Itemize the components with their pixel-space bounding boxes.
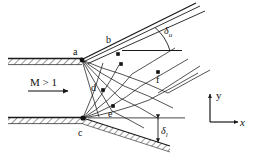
characteristics-left-running bbox=[132, 48, 210, 100]
point-label-c: c bbox=[78, 127, 83, 138]
delta-u-subscript: u bbox=[169, 31, 173, 39]
axis-label-x: x bbox=[239, 116, 245, 128]
lower-wall bbox=[8, 118, 83, 124]
upper-slipstream bbox=[82, 3, 205, 64]
point-label-b: b bbox=[106, 34, 111, 45]
point-label-e: e bbox=[108, 108, 113, 119]
figure-canvas: M > 1 a b c d e f δu δl y x bbox=[0, 0, 254, 163]
lower-deflected-boundary bbox=[83, 118, 170, 152]
upper-wall bbox=[8, 59, 82, 65]
axis-triad bbox=[210, 94, 238, 122]
point-label-a: a bbox=[73, 46, 78, 57]
mach-characteristics-diagram: M > 1 a b c d e f δu δl y x bbox=[0, 0, 254, 163]
delta-l-label: δl bbox=[161, 125, 168, 139]
delta-u-label: δu bbox=[164, 25, 173, 39]
characteristics-right-running bbox=[112, 74, 173, 128]
point-label-d: d bbox=[91, 82, 96, 93]
axis-label-y: y bbox=[216, 89, 222, 101]
delta-l-subscript: l bbox=[166, 131, 168, 139]
inflow-label: M > 1 bbox=[30, 76, 57, 88]
